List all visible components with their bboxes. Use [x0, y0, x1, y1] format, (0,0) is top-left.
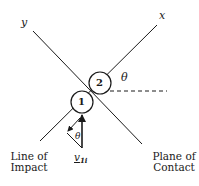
line-of-impact-label: Line of Impact: [9, 151, 49, 173]
y-axis-label: y: [21, 17, 27, 28]
plane-of-contact-label: Plane of Contact: [151, 151, 197, 173]
plane-of-contact-label-line2: Contact: [151, 162, 197, 173]
theta-angle-label-bottom: θ: [75, 131, 80, 142]
particle-1-label: 1: [78, 96, 85, 107]
line-of-impact-label-line2: Impact: [9, 162, 49, 173]
velocity-subscript: 1i: [80, 156, 88, 165]
velocity-vector-label: v1i: [74, 152, 87, 166]
plane-of-contact-line: [33, 31, 142, 144]
theta-angle-label-top: θ: [121, 72, 128, 83]
velocity-component-arrow: [68, 118, 80, 131]
particle-2-label: 2: [96, 77, 103, 88]
x-axis-label: x: [159, 10, 165, 21]
